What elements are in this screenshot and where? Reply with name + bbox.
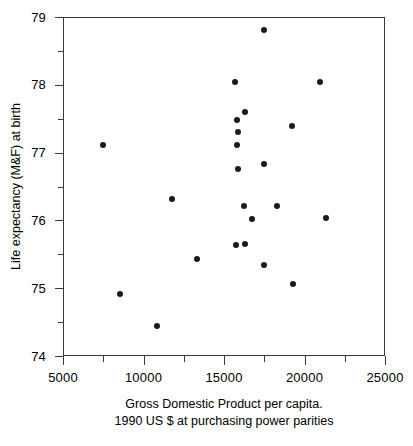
data-point	[317, 79, 323, 85]
x-tick-minor	[184, 356, 185, 362]
y-tick-label: 78	[6, 78, 46, 91]
x-tick-label: 5000	[28, 371, 98, 384]
data-point	[323, 215, 329, 221]
data-point	[242, 241, 248, 247]
data-point	[100, 142, 106, 148]
data-point	[261, 27, 267, 33]
data-point	[289, 123, 295, 129]
x-tick-major	[224, 356, 225, 365]
data-point	[169, 196, 175, 202]
x-axis-title: Gross Domestic Product per capita. 1990 …	[63, 396, 385, 430]
y-tick-major	[55, 17, 64, 18]
y-tick-minor	[58, 254, 64, 255]
data-point	[274, 203, 280, 209]
y-tick-major	[55, 220, 64, 221]
data-point	[242, 109, 248, 115]
x-tick-major	[144, 356, 145, 365]
data-point	[154, 323, 160, 329]
data-point	[249, 216, 255, 222]
scatter-plot-figure: Life expectancy (M&F) at birth Gross Dom…	[0, 0, 413, 446]
plot-area	[63, 17, 385, 356]
x-tick-label: 25000	[350, 371, 413, 384]
data-point	[241, 203, 247, 209]
data-point	[261, 161, 267, 167]
data-point	[232, 79, 238, 85]
data-point	[235, 129, 241, 135]
data-point	[235, 166, 241, 172]
x-tick-minor	[103, 356, 104, 362]
data-point	[194, 256, 200, 262]
y-tick-minor	[58, 187, 64, 188]
x-tick-label: 15000	[189, 371, 259, 384]
y-tick-label: 79	[6, 11, 46, 24]
x-axis-title-line1: Gross Domestic Product per capita.	[63, 396, 385, 413]
y-tick-minor	[58, 322, 64, 323]
x-tick-label: 10000	[109, 371, 179, 384]
data-point	[234, 142, 240, 148]
y-tick-minor	[58, 51, 64, 52]
y-tick-label: 74	[6, 350, 46, 363]
y-axis-title: Life expectancy (M&F) at birth	[8, 17, 24, 356]
x-tick-minor	[345, 356, 346, 362]
y-tick-major	[55, 288, 64, 289]
y-tick-label: 75	[6, 282, 46, 295]
x-axis-title-line2: 1990 US $ at purchasing power parities	[63, 413, 385, 430]
x-tick-label: 20000	[270, 371, 340, 384]
y-tick-major	[55, 85, 64, 86]
x-tick-major	[63, 356, 64, 365]
x-tick-major	[305, 356, 306, 365]
data-point	[117, 291, 123, 297]
data-point	[233, 242, 239, 248]
y-tick-minor	[58, 119, 64, 120]
data-point	[290, 281, 296, 287]
x-tick-minor	[264, 356, 265, 362]
y-tick-label: 77	[6, 146, 46, 159]
y-tick-major	[55, 153, 64, 154]
data-point	[234, 117, 240, 123]
data-point	[261, 262, 267, 268]
y-tick-label: 76	[6, 214, 46, 227]
x-tick-major	[385, 356, 386, 365]
